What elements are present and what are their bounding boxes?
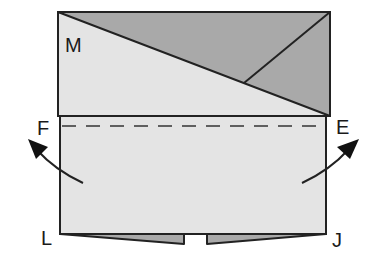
label-e: E (336, 116, 349, 138)
bottom-flaps (60, 234, 326, 244)
arrow-head-right-icon (337, 139, 359, 159)
bottom-flap-right (207, 234, 326, 244)
arrow-head-left-icon (28, 139, 48, 159)
label-f: F (37, 117, 49, 139)
bottom-flap-left (60, 234, 184, 244)
label-j: J (332, 229, 342, 251)
origami-diagram: M F E L J (0, 0, 372, 260)
label-l: L (41, 227, 52, 249)
lower-panel (60, 116, 326, 234)
label-m: M (65, 34, 82, 56)
